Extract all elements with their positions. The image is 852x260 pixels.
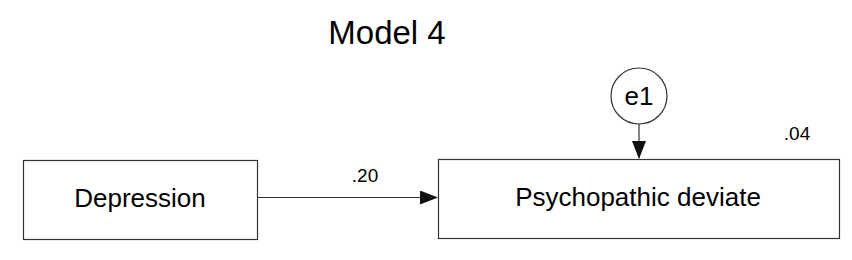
error-term-label: e1: [625, 81, 654, 111]
path-coefficient: .20: [352, 165, 378, 186]
depression-label: Depression: [74, 183, 206, 213]
diagram-title: Model 4: [328, 14, 445, 51]
r-squared-value: .04: [784, 123, 811, 144]
path-diagram: Model 4 Depression .20 Psychopathic devi…: [0, 0, 852, 260]
psychopathic-deviate-label: Psychopathic deviate: [515, 182, 761, 212]
